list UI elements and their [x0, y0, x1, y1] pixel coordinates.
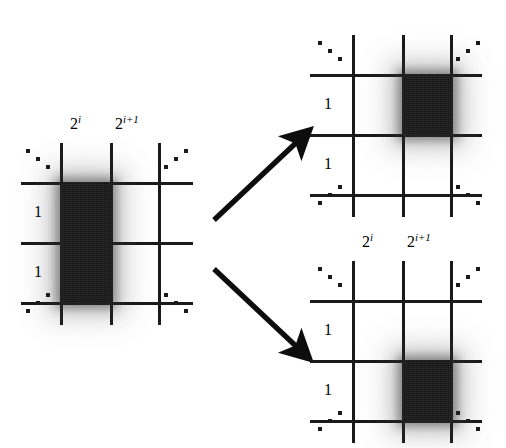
- row-label-one: 1: [34, 204, 42, 220]
- ellipsis-dot: [164, 293, 168, 297]
- ellipsis-dot: [466, 49, 470, 53]
- ellipsis-dot: [184, 309, 188, 313]
- ellipsis-dot: [26, 309, 30, 313]
- ellipsis-dot: [318, 41, 322, 45]
- ellipsis-dot: [328, 49, 332, 53]
- ellipsis-dot: [466, 419, 470, 423]
- ellipsis-dot: [174, 301, 178, 305]
- ellipsis-dot: [174, 157, 178, 161]
- column-label-base: 2: [362, 233, 370, 250]
- bottom-right-grid: 1 1 2i 2i+1: [310, 258, 490, 448]
- ellipsis-dot: [184, 149, 188, 153]
- ellipsis-dot: [328, 275, 332, 279]
- ellipsis-dots-bottom-right: [454, 408, 488, 438]
- ellipsis-dot: [46, 293, 50, 297]
- ellipsis-dot: [164, 165, 168, 169]
- ellipsis-dot: [476, 427, 480, 431]
- row-label-one: 1: [324, 322, 332, 338]
- ellipsis-dots-top-left: [316, 38, 350, 68]
- ellipsis-dot: [26, 149, 30, 153]
- ellipsis-dots-top-right: [454, 38, 488, 68]
- ellipsis-dots-bottom-left: [24, 290, 58, 320]
- grid-line-horizontal: [310, 74, 482, 77]
- grid-line-horizontal: [310, 134, 482, 137]
- row-label-one: 1: [324, 156, 332, 172]
- ellipsis-dot: [476, 201, 480, 205]
- ellipsis-dot: [338, 283, 342, 287]
- ellipsis-dots-top-right: [162, 146, 196, 176]
- ellipsis-dot: [466, 193, 470, 197]
- arrow-to-bottom-right-grid: [210, 260, 320, 360]
- ellipsis-dot: [328, 419, 332, 423]
- ellipsis-dots-top-left: [316, 264, 350, 294]
- column-label-exponent: i: [78, 113, 81, 125]
- ellipsis-dot: [318, 267, 322, 271]
- grid-line-vertical: [352, 261, 355, 443]
- dark-block-square: [403, 361, 452, 421]
- ellipsis-dots-bottom-right: [454, 182, 488, 212]
- grid-line-horizontal: [310, 360, 482, 363]
- ellipsis-dots-bottom-left: [316, 408, 350, 438]
- arrow-shaft: [214, 141, 298, 220]
- grid-line-vertical: [352, 35, 355, 217]
- ellipsis-dot: [456, 411, 460, 415]
- ellipsis-dot: [338, 411, 342, 415]
- column-label-2-to-i-plus-1: 2i+1: [407, 234, 431, 250]
- ellipsis-dot: [456, 283, 460, 287]
- column-label-exponent: i: [370, 231, 373, 243]
- column-label-exponent: i+1: [415, 231, 431, 243]
- ellipsis-dot: [456, 57, 460, 61]
- arrow-shaft: [214, 269, 298, 348]
- column-label-exponent: i+1: [123, 113, 139, 125]
- column-label-base: 2: [70, 115, 78, 132]
- ellipsis-dots-top-left: [24, 146, 58, 176]
- dark-block-tall: [61, 183, 111, 303]
- row-label-one: 1: [324, 382, 332, 398]
- column-label-2-to-i: 2i: [362, 234, 373, 250]
- dark-block-square: [403, 75, 452, 135]
- ellipsis-dot: [338, 185, 342, 189]
- column-label-base: 2: [115, 115, 123, 132]
- ellipsis-dot: [36, 301, 40, 305]
- row-label-one: 1: [324, 96, 332, 112]
- ellipsis-dot: [456, 185, 460, 189]
- ellipsis-dots-top-right: [454, 264, 488, 294]
- ellipsis-dot: [338, 57, 342, 61]
- ellipsis-dots-bottom-right: [162, 290, 196, 320]
- ellipsis-dots-bottom-left: [316, 182, 350, 212]
- left-grid: 1 1 2i 2i+1: [18, 140, 198, 330]
- top-right-grid: 1 1: [310, 32, 490, 222]
- column-label-2-to-i: 2i: [70, 116, 81, 132]
- ellipsis-dot: [328, 193, 332, 197]
- row-label-one: 1: [34, 264, 42, 280]
- ellipsis-dot: [318, 427, 322, 431]
- column-label-2-to-i-plus-1: 2i+1: [115, 116, 139, 132]
- ellipsis-dot: [318, 201, 322, 205]
- ellipsis-dot: [476, 267, 480, 271]
- ellipsis-dot: [476, 41, 480, 45]
- ellipsis-dot: [466, 275, 470, 279]
- grid-line-horizontal: [310, 300, 482, 303]
- ellipsis-dot: [36, 157, 40, 161]
- ellipsis-dot: [46, 165, 50, 169]
- grid-line-vertical: [158, 143, 161, 325]
- column-label-base: 2: [407, 233, 415, 250]
- arrow-to-top-right-grid: [210, 130, 320, 230]
